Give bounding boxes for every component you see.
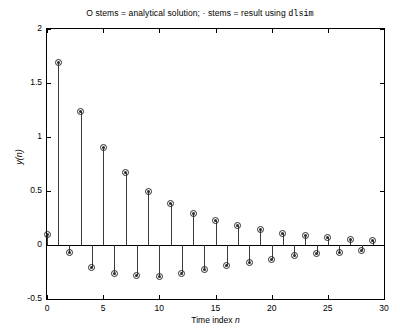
- y-axis-tick: [47, 191, 51, 192]
- x-axis-tick-label: 0: [45, 303, 50, 313]
- x-axis-tick: [272, 295, 273, 299]
- stem-line: [159, 245, 160, 276]
- x-axis-tick-label: 10: [155, 303, 164, 313]
- stem-marker: [77, 108, 84, 115]
- x-axis-tick: [159, 295, 160, 299]
- stem-marker: [246, 259, 253, 266]
- stem-line: [171, 204, 172, 245]
- figure: O stems = analytical solution; · stems =…: [0, 0, 400, 336]
- stem-marker: [268, 256, 275, 263]
- y-axis-tick: [47, 29, 51, 30]
- x-axis-label-italic: n: [235, 315, 240, 325]
- y-axis-tick-right: [380, 137, 384, 138]
- plot-area: [46, 28, 385, 300]
- y-axis-tick: [47, 299, 51, 300]
- y-axis-label: y(n): [14, 127, 24, 187]
- x-axis-tick-top: [272, 29, 273, 33]
- stem-marker: [100, 144, 107, 151]
- x-axis-label: Time index n: [46, 315, 385, 325]
- stem-line: [114, 245, 115, 273]
- stem-line: [148, 191, 149, 245]
- chart-title: O stems = analytical solution; · stems =…: [0, 8, 400, 19]
- y-axis-tick-right: [380, 29, 384, 30]
- stem-line: [137, 245, 138, 275]
- stem-marker: [44, 231, 51, 238]
- x-axis-label-text: Time index: [191, 315, 235, 325]
- stem-marker: [336, 249, 343, 256]
- x-axis-tick-top: [103, 29, 104, 33]
- stem-marker: [291, 252, 298, 259]
- stem-marker: [324, 234, 331, 241]
- stem-marker: [88, 264, 95, 271]
- y-axis-tick: [47, 245, 51, 246]
- stem-marker: [111, 270, 118, 277]
- stem-marker: [302, 232, 309, 239]
- stem-marker: [223, 262, 230, 269]
- x-axis-tick: [103, 295, 104, 299]
- stem-line: [193, 214, 194, 245]
- stem-marker: [66, 249, 73, 256]
- stem-marker: [156, 273, 163, 280]
- stem-marker: [145, 188, 152, 195]
- stem-marker: [313, 250, 320, 257]
- stem-marker: [133, 272, 140, 279]
- stem-line: [216, 220, 217, 245]
- y-axis-tick-right: [380, 191, 384, 192]
- y-axis-tick-right: [380, 299, 384, 300]
- x-axis-tick-label: 30: [379, 303, 388, 313]
- y-axis-tick: [47, 137, 51, 138]
- x-axis-tick-label: 5: [101, 303, 106, 313]
- x-axis-tick: [328, 295, 329, 299]
- x-axis-tick-label: 20: [267, 303, 276, 313]
- stem-line: [103, 148, 104, 245]
- stem-marker: [167, 200, 174, 207]
- x-axis-tick-top: [159, 29, 160, 33]
- stem-marker: [190, 210, 197, 217]
- chart-title-text: O stems = analytical solution; · stems =…: [86, 8, 288, 18]
- y-axis-tick: [47, 83, 51, 84]
- x-axis-tick: [216, 295, 217, 299]
- stem-marker: [234, 222, 241, 229]
- x-axis-tick-top: [384, 29, 385, 33]
- stem-line: [126, 173, 127, 245]
- stem-marker: [279, 230, 286, 237]
- stem-marker: [122, 169, 129, 176]
- x-axis-tick-top: [328, 29, 329, 33]
- chart-title-mono-dlsim: dlsim: [288, 9, 314, 19]
- x-axis-tick-top: [216, 29, 217, 33]
- stem-marker: [55, 59, 62, 66]
- y-axis-tick-right: [380, 83, 384, 84]
- stem-marker: [257, 226, 264, 233]
- stem-marker: [347, 236, 354, 243]
- zero-axis-line: [47, 245, 384, 246]
- stem-marker: [369, 237, 376, 244]
- stem-marker: [178, 270, 185, 277]
- x-axis-tick-label: 25: [323, 303, 332, 313]
- stem-line: [81, 111, 82, 245]
- stem-marker: [358, 247, 365, 254]
- x-axis-tick: [384, 295, 385, 299]
- stem-marker: [201, 266, 208, 273]
- y-axis-tick-right: [380, 245, 384, 246]
- y-axis-label-text: y(n): [14, 149, 24, 165]
- stem-line: [58, 62, 59, 245]
- stem-marker: [212, 217, 219, 224]
- x-axis-tick-label: 15: [211, 303, 220, 313]
- stem-line: [182, 245, 183, 273]
